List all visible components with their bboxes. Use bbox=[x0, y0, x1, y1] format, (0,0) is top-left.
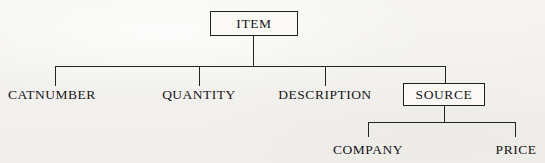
connector-drop-company bbox=[368, 122, 369, 137]
node-item-label: ITEM bbox=[236, 16, 271, 32]
node-catnumber[interactable]: CATNUMBER bbox=[8, 88, 96, 102]
node-source[interactable]: SOURCE bbox=[403, 83, 485, 106]
node-quantity[interactable]: QUANTITY bbox=[162, 88, 236, 102]
node-company[interactable]: COMPANY bbox=[333, 143, 403, 157]
node-description[interactable]: DESCRIPTION bbox=[278, 88, 371, 102]
connector-level3-bus bbox=[368, 122, 516, 123]
connector-source-stem bbox=[444, 106, 445, 123]
connector-drop-quantity bbox=[199, 66, 200, 86]
diagram-canvas: ITEM CATNUMBER QUANTITY DESCRIPTION SOUR… bbox=[0, 0, 545, 163]
connector-item-stem bbox=[253, 36, 254, 67]
connector-level2-bus bbox=[55, 66, 446, 67]
connector-drop-description bbox=[325, 66, 326, 86]
node-price[interactable]: PRICE bbox=[496, 143, 537, 157]
node-item[interactable]: ITEM bbox=[210, 11, 298, 36]
connector-drop-source bbox=[445, 66, 446, 84]
connector-drop-catnumber bbox=[55, 66, 56, 86]
node-source-label: SOURCE bbox=[416, 87, 473, 103]
connector-drop-price bbox=[515, 122, 516, 137]
